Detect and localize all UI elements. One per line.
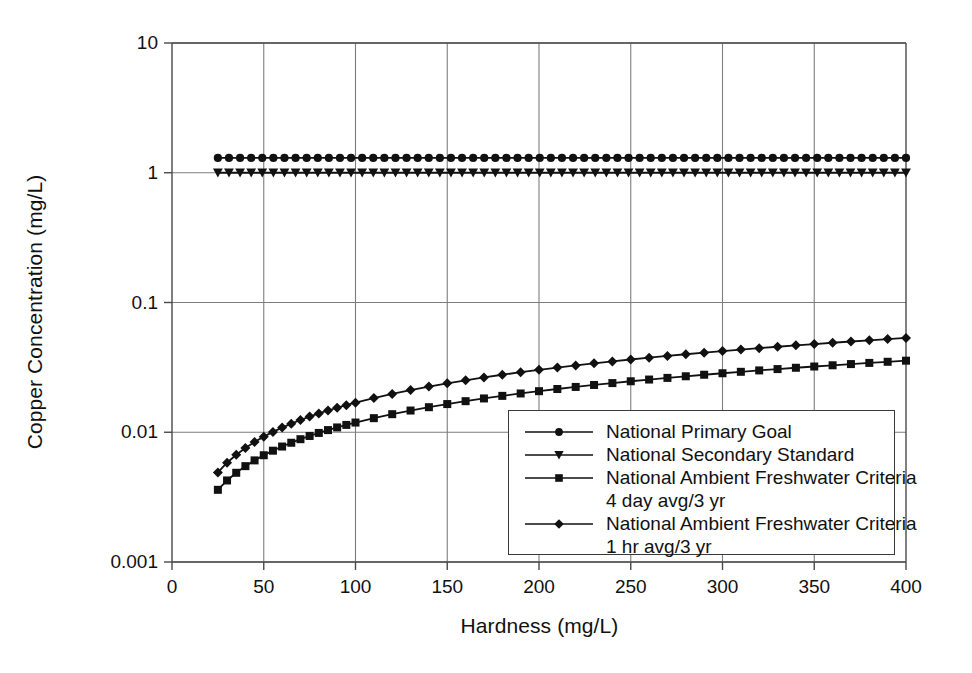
legend-marker-triangle-down-icon <box>523 445 595 465</box>
legend-label: National Ambient Freshwater Criteria <box>606 468 916 488</box>
y-tick-label: 0.01 <box>121 421 158 443</box>
legend-marker-circle-icon <box>523 422 595 442</box>
legend-entry: National Ambient Freshwater Criteria <box>509 512 894 535</box>
y-tick-label: 10 <box>137 32 158 54</box>
y-tick-label: 0.001 <box>110 551 158 573</box>
x-tick-label: 200 <box>523 576 555 598</box>
legend-entry: National Secondary Standard <box>509 443 894 466</box>
legend-entry: National Primary Goal <box>509 420 894 443</box>
x-tick-label: 0 <box>167 576 178 598</box>
y-tick-label: 0.1 <box>132 292 158 314</box>
chart-figure: 0.0010.010.1110 050100150200250300350400… <box>0 0 972 673</box>
legend-label: National Secondary Standard <box>606 445 854 465</box>
legend-label: National Ambient Freshwater Criteria <box>606 514 916 534</box>
legend-label: National Primary Goal <box>606 422 792 442</box>
legend-entry: National Ambient Freshwater Criteria <box>509 466 894 489</box>
y-axis-title: Copper Concentration (mg/L) <box>23 132 47 492</box>
x-tick-label: 350 <box>798 576 830 598</box>
legend-label: 1 hr avg/3 yr <box>606 537 712 557</box>
chart-legend: National Primary GoalNational Secondary … <box>508 410 895 555</box>
legend-marker-square-icon <box>523 468 595 488</box>
legend-marker-diamond-icon <box>523 514 595 534</box>
legend-label: 4 day avg/3 yr <box>606 491 725 511</box>
x-tick-label: 150 <box>431 576 463 598</box>
y-tick-label: 1 <box>147 162 158 184</box>
legend-entry: 1 hr avg/3 yr <box>509 535 894 558</box>
x-axis-title: Hardness (mg/L) <box>172 614 907 638</box>
x-tick-label: 100 <box>340 576 372 598</box>
legend-entry: 4 day avg/3 yr <box>509 489 894 512</box>
x-tick-label: 50 <box>253 576 274 598</box>
x-tick-label: 400 <box>890 576 922 598</box>
x-tick-label: 250 <box>615 576 647 598</box>
x-tick-label: 300 <box>707 576 739 598</box>
